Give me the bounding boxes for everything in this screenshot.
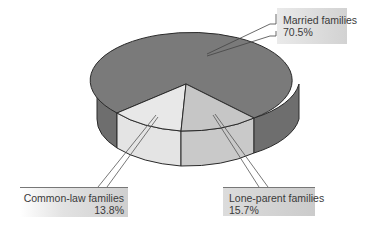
- label-common-law-percent: 13.8%: [20, 204, 124, 216]
- label-common-law-families: Common-law families 13.8%: [20, 187, 128, 217]
- label-lone-parent-percent: 15.7%: [229, 204, 315, 216]
- label-married-families: Married families 70.5%: [277, 8, 347, 44]
- label-married-percent: 70.5%: [283, 26, 347, 38]
- label-common-law-name: Common-law families: [20, 192, 124, 204]
- label-lone-parent-name: Lone-parent families: [229, 192, 315, 204]
- label-lone-parent-families: Lone-parent families 15.7%: [223, 187, 315, 216]
- label-married-name: Married families: [283, 14, 347, 26]
